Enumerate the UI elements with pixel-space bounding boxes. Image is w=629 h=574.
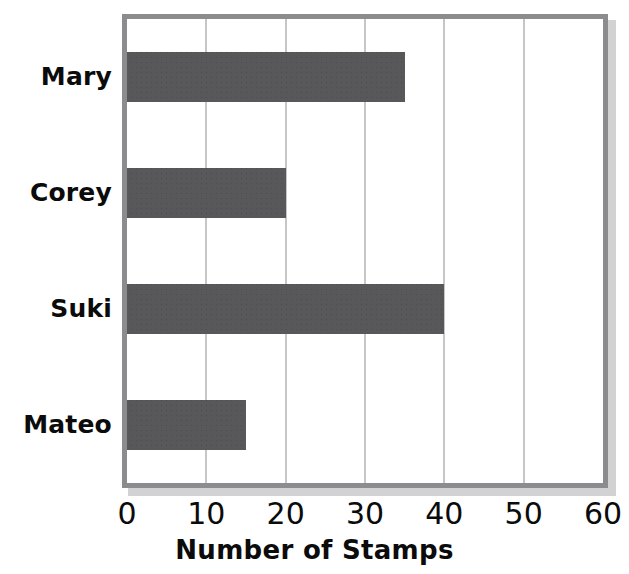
x-tick-40: 40 xyxy=(414,498,474,530)
bar-suki xyxy=(127,284,444,334)
bar-texture xyxy=(127,400,246,450)
x-tick-50: 50 xyxy=(494,498,554,530)
x-tick-30: 30 xyxy=(335,498,395,530)
x-tick-60: 60 xyxy=(573,498,629,530)
bar-chart: · MaryCoreySukiMateo 0102030405060 Numbe… xyxy=(0,0,629,574)
gridline-40 xyxy=(443,19,445,483)
category-label-mary: Mary xyxy=(41,64,112,89)
bar-texture xyxy=(127,52,405,102)
x-axis-title: Number of Stamps xyxy=(0,536,629,564)
category-label-mateo: Mateo xyxy=(23,412,112,437)
category-label-corey: Corey xyxy=(30,180,112,205)
category-label-suki: Suki xyxy=(50,296,112,321)
bar-mateo xyxy=(127,400,246,450)
gridline-50 xyxy=(523,19,525,483)
bar-texture xyxy=(127,284,444,334)
x-tick-0: 0 xyxy=(97,498,157,530)
x-tick-10: 10 xyxy=(176,498,236,530)
x-tick-20: 20 xyxy=(256,498,316,530)
chart-title-clipped: · xyxy=(300,0,330,4)
bar-mary xyxy=(127,52,405,102)
plot-area xyxy=(127,19,603,483)
bar-corey xyxy=(127,168,286,218)
bar-texture xyxy=(127,168,286,218)
